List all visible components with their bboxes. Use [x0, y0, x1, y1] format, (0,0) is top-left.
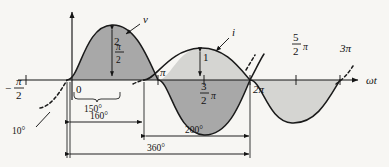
tick-five-half-pi-suffix: π — [303, 42, 308, 52]
origin-label: 0 — [76, 83, 82, 95]
omega-t-axis-label: ωt — [366, 74, 378, 86]
dim-200-label: 200° — [185, 125, 203, 135]
tick-pi-label: π — [160, 66, 166, 78]
tick-neg-half-pi-numerator: π — [16, 75, 22, 87]
tick-three-half-pi-suffix: π — [211, 91, 216, 101]
voltage-position-denominator: 2 — [116, 55, 121, 65]
tick-three-half-pi-denominator: 2 — [201, 94, 207, 106]
waveform-figure: ωt 0 − π 2 π 3 2 π 2π 5 2 π 3π v i 10° 2… — [0, 0, 389, 167]
current-dashed-segment-right — [246, 55, 255, 70]
tick-two-pi-label: 2π — [253, 83, 265, 95]
tick-three-half-pi-numerator: 3 — [201, 80, 207, 92]
tick-neg-half-pi-denominator: 2 — [16, 89, 22, 101]
current-lead-dashed-segment-left — [133, 80, 144, 84]
voltage-position-numerator: π — [116, 42, 121, 52]
voltage-lead-dashed-segment — [40, 80, 67, 108]
voltage-callout-label: v — [143, 13, 148, 25]
tick-five-half-pi-numerator: 5 — [293, 31, 299, 43]
tick-five-half-pi-denominator: 2 — [293, 45, 299, 57]
phase-lead-label: 10° — [12, 126, 26, 136]
phase-lead-callout-leader — [36, 112, 50, 127]
voltage-callout-leader — [126, 24, 140, 34]
dim-360-label: 360° — [147, 143, 165, 153]
tick-three-pi-label: 3π — [339, 42, 352, 54]
dim-160-label: 160° — [90, 111, 108, 121]
current-callout-label: i — [232, 26, 235, 38]
figure-canvas: ωt 0 − π 2 π 3 2 π 2π 5 2 π 3π v i 10° 2… — [0, 0, 389, 167]
current-amplitude-value: 1 — [203, 51, 209, 63]
current-callout-leader — [216, 38, 229, 51]
tick-neg-half-pi-sign: − — [5, 82, 11, 94]
